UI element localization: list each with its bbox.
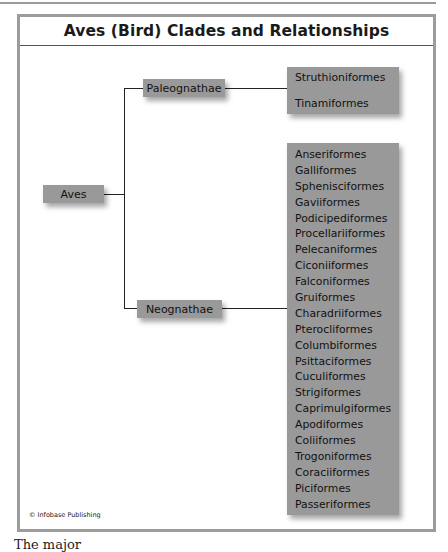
neognathae-orders-box: Anseriformes Galliformes Sphenisciformes…	[287, 143, 399, 515]
figure-frame: Aves (Bird) Clades and Relationships Ave…	[17, 14, 436, 532]
node-aves: Aves	[43, 185, 104, 203]
figure-title: Aves (Bird) Clades and Relationships	[64, 22, 390, 40]
list-item: Coraciiformes	[295, 465, 399, 481]
list-item: Anseriformes	[295, 147, 399, 163]
list-item: Apodiformes	[295, 417, 399, 433]
list-item: Sphenisciformes	[295, 179, 399, 195]
list-item: Tinamiformes	[295, 97, 369, 110]
connector-neognathae-to-orders	[222, 308, 288, 309]
node-neognathae-label: Neognathae	[146, 303, 213, 316]
connector-trunk-to-neognathae	[124, 308, 138, 309]
node-paleognathae-label: Paleognathae	[147, 82, 222, 95]
list-item: Trogoniformes	[295, 449, 399, 465]
list-item: Procellariiformes	[295, 226, 399, 242]
list-item: Gruiformes	[295, 290, 399, 306]
list-item: Galliformes	[295, 163, 399, 179]
page-top-rule	[0, 2, 436, 4]
paleognathae-orders-box: Struthioniformes Tinamiformes	[287, 67, 399, 114]
list-item: Struthioniformes	[295, 71, 385, 84]
list-item: Caprimulgiformes	[295, 401, 399, 417]
node-aves-label: Aves	[61, 188, 87, 201]
list-item: Podicipediformes	[295, 211, 399, 227]
list-item: Gaviiformes	[295, 195, 399, 211]
list-item: Ciconiiformes	[295, 258, 399, 274]
list-item: Cuculiformes	[295, 369, 399, 385]
node-neognathae: Neognathae	[137, 300, 222, 318]
list-item: Passeriformes	[295, 497, 399, 513]
list-item: Columbiformes	[295, 338, 399, 354]
connector-aves-to-trunk	[104, 194, 125, 195]
copyright-credit: © Infobase Publishing	[29, 511, 101, 519]
node-paleognathae: Paleognathae	[143, 79, 225, 97]
list-item: Pterocliformes	[295, 322, 399, 338]
list-item: Falconiformes	[295, 274, 399, 290]
list-item: Piciformes	[295, 481, 399, 497]
list-item: Strigiformes	[295, 385, 399, 401]
connector-paleognathae-to-orders	[225, 88, 288, 89]
list-item: Coliiformes	[295, 433, 399, 449]
list-item: Psittaciformes	[295, 354, 399, 370]
figure-caption-fragment: The major	[14, 537, 81, 552]
connector-trunk-to-paleognathae	[124, 88, 143, 89]
title-bar: Aves (Bird) Clades and Relationships	[20, 17, 433, 46]
connector-trunk-vertical	[124, 88, 125, 309]
list-item: Charadriiformes	[295, 306, 399, 322]
list-item: Pelecaniformes	[295, 242, 399, 258]
